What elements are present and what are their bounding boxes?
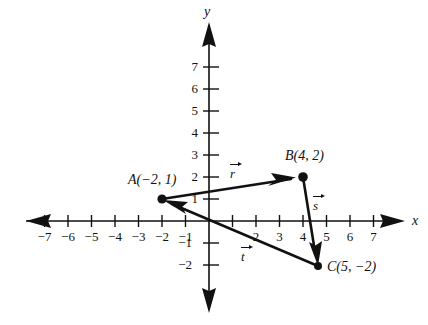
y-tick-label--1: −1 <box>170 235 192 251</box>
y-tick-label-4: 4 <box>176 125 198 141</box>
y-tick-label-2: 2 <box>176 169 198 185</box>
y-tick-label-6: 6 <box>176 81 198 97</box>
vector-arrow-s-icon <box>312 194 318 198</box>
y-tick-label-1: 1 <box>176 191 198 207</box>
coordinate-plane-svg <box>0 0 428 325</box>
x-axis-arrow-right <box>380 214 405 228</box>
x-tick-label-4: 4 <box>292 229 314 245</box>
x-axis-arrow-left <box>26 214 51 228</box>
point-label-B-text: B(4, 2) <box>285 148 324 163</box>
vector-label-r-text: r <box>229 166 235 182</box>
x-tick-label-7: 7 <box>363 229 385 245</box>
y-tick-label-3: 3 <box>176 147 198 163</box>
x-tick-label-2: 2 <box>245 229 267 245</box>
x-tick-label--6: −6 <box>57 229 79 245</box>
vector-label-t: t <box>240 245 245 265</box>
point-marker-C <box>314 262 322 270</box>
point-label-C-text: C(5, −2) <box>327 259 376 274</box>
x-tick-label--5: −5 <box>81 229 103 245</box>
x-tick-label--3: −3 <box>128 229 150 245</box>
y-axis-ticks <box>203 67 219 265</box>
point-label-A-text: A(−2, 1) <box>128 172 176 187</box>
vector-arrow-t-icon <box>240 245 245 249</box>
vector-label-s: s <box>312 194 318 214</box>
x-tick-label-6: 6 <box>339 229 361 245</box>
vector-arrow-r-icon <box>229 162 235 166</box>
point-label-A: A(−2, 1) <box>128 172 176 188</box>
x-tick-label--7: −7 <box>34 229 56 245</box>
y-tick-label--2: −2 <box>170 257 192 273</box>
point-marker-B <box>298 172 308 182</box>
point-label-B: B(4, 2) <box>285 148 324 164</box>
vector-diagram-figure: y x −7 −6 −5 −4 −3 −2 −1 2 3 4 5 6 7 7 6… <box>0 0 428 325</box>
x-tick-label-3: 3 <box>269 229 291 245</box>
vector-label-t-text: t <box>240 249 245 265</box>
y-tick-label-5: 5 <box>176 103 198 119</box>
x-axis-label: x <box>412 213 418 229</box>
y-axis-arrow-up <box>202 22 216 47</box>
x-tick-label-5: 5 <box>316 229 338 245</box>
y-tick-label-7: 7 <box>176 59 198 75</box>
y-axis-arrow-down <box>202 288 216 313</box>
x-tick-label--4: −4 <box>104 229 126 245</box>
vector-label-s-text: s <box>312 198 318 214</box>
vector-label-r: r <box>229 162 235 182</box>
point-marker-A <box>157 194 166 203</box>
y-axis-label: y <box>204 4 210 20</box>
point-label-C: C(5, −2) <box>327 259 376 275</box>
